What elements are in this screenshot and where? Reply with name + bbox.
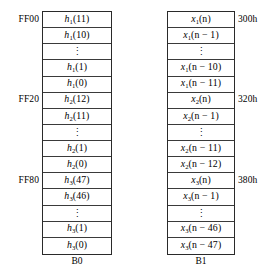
cell-label: x2(n − 12) [181, 159, 222, 170]
cell-label: h1(10) [64, 30, 89, 41]
memory-cell: h1(11) [43, 12, 111, 28]
cell-label: ⋮ [73, 127, 82, 137]
memory-cell: x2(n − 11) [168, 141, 234, 157]
cell-label: h2(12) [64, 94, 89, 105]
memory-cell: x1(n − 10) [168, 60, 234, 76]
address-gutter-left: FF00FF20FF80 [0, 0, 42, 277]
cell-label: ⋮ [197, 208, 206, 218]
cell-label: h2(0) [67, 159, 87, 170]
cell-label: x2(n − 1) [183, 111, 219, 122]
address-label: 380h [238, 175, 257, 186]
memory-map-figure: FF00FF20FF80 300h320h380h h1(11)h1(10)⋮h… [0, 0, 279, 277]
cell-label: x1(n − 1) [183, 30, 219, 41]
memory-cell-ellipsis: ⋮ [43, 206, 111, 222]
cell-label: h3(0) [67, 240, 87, 251]
cell-label: h2(11) [65, 111, 90, 122]
bank-caption-b1: B1 [167, 256, 235, 266]
cell-label: ⋮ [197, 47, 206, 57]
memory-bank-b0: h1(11)h1(10)⋮h1(1)h1(0)h2(12)h2(11)⋮h2(1… [42, 11, 112, 255]
memory-cell: x3(n − 1) [168, 189, 234, 205]
cell-label: h3(47) [64, 175, 89, 186]
memory-cell: x3(n − 47) [168, 238, 234, 254]
memory-cell: x2(n − 12) [168, 157, 234, 173]
cell-label: x3(n − 1) [183, 191, 219, 202]
address-label: 300h [238, 14, 257, 25]
cell-label: x1(n − 11) [181, 78, 221, 89]
cell-label: h3(46) [64, 191, 89, 202]
memory-cell: x1(n) [168, 12, 234, 28]
memory-cell: h3(47) [43, 173, 111, 189]
cell-label: h1(1) [67, 62, 87, 73]
cell-label: ⋮ [73, 47, 82, 57]
memory-cell: x3(n) [168, 173, 234, 189]
cell-label: h1(11) [65, 14, 90, 25]
memory-cell-ellipsis: ⋮ [168, 125, 234, 141]
cell-label: h2(1) [67, 143, 87, 154]
address-gutter-right: 300h320h380h [236, 0, 279, 277]
cell-label: ⋮ [197, 127, 206, 137]
address-label: FF20 [19, 94, 39, 105]
memory-cell: x2(n − 1) [168, 109, 234, 125]
memory-cell: h2(0) [43, 157, 111, 173]
memory-bank-b1: x1(n)x1(n − 1)⋮x1(n − 10)x1(n − 11)x2(n)… [167, 11, 235, 255]
cell-label: x3(n) [191, 175, 211, 186]
address-label: FF80 [19, 175, 39, 186]
memory-cell-ellipsis: ⋮ [43, 44, 111, 60]
memory-cell: h2(11) [43, 109, 111, 125]
memory-cell: h1(0) [43, 77, 111, 93]
cell-label: x3(n − 46) [181, 223, 222, 234]
cell-label: x1(n − 10) [181, 62, 222, 73]
cell-label: ⋮ [73, 208, 82, 218]
memory-cell-ellipsis: ⋮ [168, 206, 234, 222]
bank-caption-b0: B0 [42, 256, 112, 266]
cell-label: h3(1) [67, 223, 87, 234]
memory-cell: x1(n − 11) [168, 77, 234, 93]
memory-cell-ellipsis: ⋮ [43, 125, 111, 141]
cell-label: x2(n) [191, 94, 211, 105]
memory-cell: h2(1) [43, 141, 111, 157]
cell-label: x1(n) [191, 14, 211, 25]
memory-cell: x1(n − 1) [168, 28, 234, 44]
address-label: 320h [238, 94, 257, 105]
memory-cell: h3(46) [43, 189, 111, 205]
memory-cell: h3(1) [43, 222, 111, 238]
memory-cell: h1(10) [43, 28, 111, 44]
memory-cell: x2(n) [168, 93, 234, 109]
cell-label: x3(n − 47) [181, 240, 222, 251]
memory-cell: h3(0) [43, 238, 111, 254]
memory-cell: h1(1) [43, 60, 111, 76]
memory-cell: h2(12) [43, 93, 111, 109]
cell-label: h1(0) [67, 78, 87, 89]
cell-label: x2(n − 11) [181, 143, 221, 154]
address-label: FF00 [19, 14, 39, 25]
memory-cell: x3(n − 46) [168, 222, 234, 238]
memory-cell-ellipsis: ⋮ [168, 44, 234, 60]
